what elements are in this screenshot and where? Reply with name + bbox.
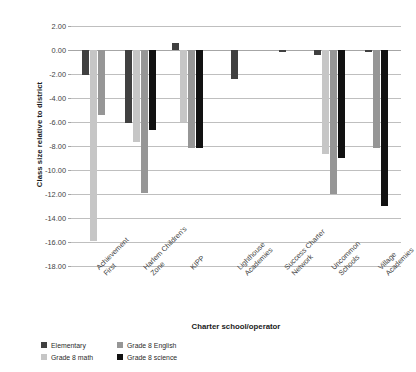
y-axis-tick-label: -8.00: [49, 142, 66, 151]
y-axis-tick-label: -10.00: [45, 166, 66, 175]
y-axis-tick-label: -6.00: [49, 118, 66, 127]
bar[interactable]: [98, 50, 105, 115]
bar-group: [212, 26, 259, 266]
bar[interactable]: [90, 50, 97, 241]
bar[interactable]: [322, 50, 329, 154]
legend-label: Grade 8 science: [127, 354, 177, 361]
legend-label: Grade 8 math: [51, 354, 93, 361]
bar[interactable]: [231, 50, 238, 79]
y-axis-tick-label: 0.00: [52, 46, 66, 55]
y-axis-tick-label: -14.00: [45, 214, 66, 223]
y-axis-tick-label: -4.00: [49, 94, 66, 103]
bar[interactable]: [133, 50, 140, 142]
legend-label: Grade 8 English: [127, 342, 176, 349]
bar[interactable]: [373, 50, 380, 148]
legend-swatch-icon: [117, 342, 123, 348]
y-axis-tick-label: -12.00: [45, 190, 66, 199]
bar[interactable]: [172, 43, 179, 50]
bar-group: [307, 26, 354, 266]
legend-label: Elementary: [51, 342, 86, 349]
legend-item[interactable]: Elementary: [41, 342, 117, 349]
bar[interactable]: [279, 50, 286, 52]
legend-swatch-icon: [41, 342, 47, 348]
legend-item[interactable]: Grade 8 science: [117, 354, 227, 361]
bar[interactable]: [338, 50, 345, 158]
bar[interactable]: [365, 50, 372, 52]
bar[interactable]: [314, 50, 321, 55]
bar[interactable]: [82, 50, 89, 75]
bar[interactable]: [381, 50, 388, 206]
legend-item[interactable]: Grade 8 English: [117, 342, 227, 349]
bar[interactable]: [125, 50, 132, 123]
bar[interactable]: [330, 50, 337, 194]
legend-swatch-icon: [117, 354, 123, 360]
bar[interactable]: [149, 50, 156, 130]
bar-group: [354, 26, 401, 266]
y-axis-tick-label: -2.00: [49, 70, 66, 79]
x-axis-tick-labels: AchievementFirstHarlem Children'sZoneKIP…: [71, 266, 401, 326]
bar[interactable]: [196, 50, 203, 148]
legend-swatch-icon: [41, 354, 47, 360]
y-axis-tick-label: -18.00: [45, 262, 66, 271]
bar-chart: Class size relative to district 2.000.00…: [0, 0, 416, 372]
bar[interactable]: [141, 50, 148, 193]
bar[interactable]: [188, 50, 195, 148]
bar-group: [118, 26, 165, 266]
bar-series-container: [71, 26, 401, 266]
x-axis-title: Charter school/operator: [71, 322, 401, 331]
y-axis-tick-label: -16.00: [45, 238, 66, 247]
y-axis-title: Class size relative to district: [35, 35, 44, 235]
plot-area: 2.000.00-2.00-4.00-6.00-8.00-10.00-12.00…: [71, 26, 401, 266]
bar-group: [71, 26, 118, 266]
legend-item[interactable]: Grade 8 math: [41, 354, 117, 361]
bar[interactable]: [180, 50, 187, 122]
bar-group: [260, 26, 307, 266]
y-axis-tick-label: 2.00: [52, 22, 66, 31]
chart-legend: ElementaryGrade 8 EnglishGrade 8 mathGra…: [41, 339, 227, 363]
